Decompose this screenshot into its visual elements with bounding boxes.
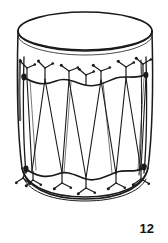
drum-head-ellipse (18, 12, 152, 50)
rope-knot (144, 72, 149, 78)
rope-knot (21, 74, 26, 81)
figure-container: 12 (0, 0, 168, 243)
drum-illustration (0, 0, 168, 243)
shell-shadow-left (19, 60, 20, 120)
rope-knot (23, 166, 28, 173)
rope-knot (141, 164, 146, 171)
figure-number-label: 12 (140, 222, 154, 235)
